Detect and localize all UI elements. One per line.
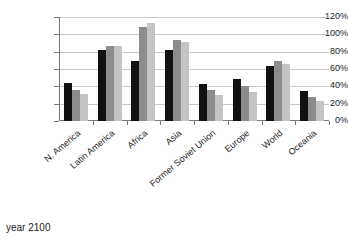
x-tick-mark: [194, 121, 195, 125]
x-tick-mark: [160, 121, 161, 125]
x-axis-label: Former Soviet Union: [119, 128, 217, 213]
chart-caption: year 2100: [6, 222, 50, 234]
bar: [266, 66, 274, 121]
x-axis-label: N. America: [0, 128, 82, 213]
bar: [300, 91, 308, 121]
bar: [199, 84, 207, 121]
bar: [147, 23, 155, 121]
bar: [241, 86, 249, 121]
x-axis-label: Asia: [85, 128, 183, 213]
bar-group: [228, 17, 262, 121]
bar: [139, 27, 147, 121]
bar: [207, 90, 215, 121]
x-axis-label: Europe: [153, 128, 251, 213]
bar: [215, 95, 223, 121]
bar-group: [127, 17, 161, 121]
x-axis-label: Oceania: [220, 128, 318, 213]
x-tick-mark: [127, 121, 128, 125]
x-axis-label: Latin America: [18, 128, 116, 213]
bar: [165, 50, 173, 121]
bar: [316, 101, 324, 121]
bar-group: [295, 17, 329, 121]
bar-group: [160, 17, 194, 121]
bar: [131, 61, 139, 121]
x-tick-mark: [228, 121, 229, 125]
bar-group: [262, 17, 296, 121]
bar: [308, 97, 316, 121]
bar-group: [59, 17, 93, 121]
x-tick-mark: [262, 121, 263, 125]
y-tick-mark: [54, 121, 59, 122]
bar: [173, 40, 181, 121]
bar-groups: [59, 17, 329, 121]
bar: [114, 46, 122, 121]
x-tick-mark: [329, 121, 330, 125]
bar: [282, 64, 290, 121]
bar: [274, 61, 282, 121]
bar: [64, 83, 72, 121]
bar: [181, 42, 189, 121]
plot-area: [59, 17, 329, 121]
chart-figure: 0%20%40%60%80%100%120% N. AmericaLatin A…: [0, 0, 348, 246]
bar: [249, 92, 257, 121]
bar: [106, 46, 114, 121]
x-tick-mark: [295, 121, 296, 125]
x-tick-mark: [93, 121, 94, 125]
x-axis-label: Africa: [51, 128, 149, 213]
bar: [98, 50, 106, 121]
x-axis-label: World: [186, 128, 284, 213]
bar-group: [194, 17, 228, 121]
bar-group: [93, 17, 127, 121]
bar: [80, 94, 88, 121]
bar: [72, 90, 80, 121]
bar: [233, 79, 241, 121]
